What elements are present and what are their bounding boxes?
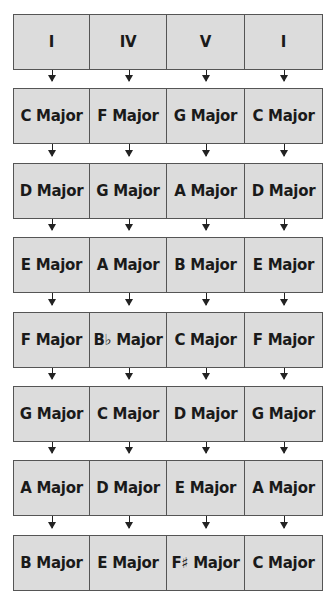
down-arrow-icon (129, 368, 130, 379)
key-row: B MajorE MajorF♯ MajorC Major (13, 535, 323, 591)
down-arrow-icon (129, 442, 130, 453)
chord-key-cell: D Major (90, 460, 167, 516)
down-arrow-icon (206, 70, 207, 81)
chord-key-cell: A Major (245, 460, 323, 516)
key-row: E MajorA MajorB MajorE Major (13, 237, 323, 293)
down-arrow-icon (52, 144, 53, 156)
chord-key-cell: A Major (13, 460, 90, 516)
down-arrow-icon (206, 516, 207, 528)
down-arrow-icon (52, 70, 53, 81)
chord-key-cell: D Major (13, 163, 90, 219)
down-arrow-icon (129, 144, 130, 156)
chord-numeral-cell: V (167, 14, 245, 70)
down-arrow-icon (284, 144, 285, 156)
chord-key-cell: D Major (245, 163, 323, 219)
chord-key-cell: C Major (167, 312, 245, 368)
down-arrow-icon (206, 442, 207, 453)
chord-numeral-cell: I (245, 14, 323, 70)
key-row: C MajorF MajorG MajorC Major (13, 88, 323, 144)
chord-key-cell: C Major (245, 88, 323, 144)
chord-key-cell: E Major (167, 460, 245, 516)
key-row: D MajorG MajorA MajorD Major (13, 163, 323, 219)
down-arrow-icon (52, 293, 53, 305)
chord-key-cell: B Major (13, 535, 90, 591)
chord-key-cell: E Major (13, 237, 90, 293)
chord-key-cell: E Major (245, 237, 323, 293)
chord-key-cell: G Major (90, 163, 167, 219)
down-arrow-icon (284, 293, 285, 305)
chord-key-cell: A Major (167, 163, 245, 219)
chord-key-cell: G Major (167, 88, 245, 144)
down-arrow-icon (284, 70, 285, 81)
down-arrow-icon (206, 219, 207, 230)
down-arrow-icon (284, 219, 285, 230)
key-row: F MajorB♭ MajorC MajorF Major (13, 312, 323, 368)
roman-numeral-row: IIVVI (13, 14, 323, 70)
down-arrow-icon (52, 442, 53, 453)
chord-key-cell: G Major (245, 386, 323, 442)
chord-key-cell: C Major (13, 88, 90, 144)
chord-key-cell: F Major (13, 312, 90, 368)
down-arrow-icon (206, 293, 207, 305)
chord-key-cell: F Major (90, 88, 167, 144)
down-arrow-icon (206, 144, 207, 156)
down-arrow-icon (284, 442, 285, 453)
chord-key-cell: C Major (90, 386, 167, 442)
down-arrow-icon (206, 368, 207, 379)
chord-key-cell: D Major (167, 386, 245, 442)
down-arrow-icon (129, 70, 130, 81)
down-arrow-icon (129, 293, 130, 305)
chord-key-cell: F♯ Major (167, 535, 245, 591)
chord-key-cell: G Major (13, 386, 90, 442)
key-row: G MajorC MajorD MajorG Major (13, 386, 323, 442)
chord-numeral-cell: I (13, 14, 90, 70)
key-row: A MajorD MajorE MajorA Major (13, 460, 323, 516)
chord-key-cell: E Major (90, 535, 167, 591)
chord-key-cell: B♭ Major (90, 312, 167, 368)
chord-key-cell: A Major (90, 237, 167, 293)
chord-key-cell: C Major (245, 535, 323, 591)
down-arrow-icon (129, 516, 130, 528)
down-arrow-icon (52, 368, 53, 379)
down-arrow-icon (129, 219, 130, 230)
chord-key-cell: B Major (167, 237, 245, 293)
chord-numeral-cell: IV (90, 14, 167, 70)
down-arrow-icon (284, 368, 285, 379)
down-arrow-icon (52, 516, 53, 528)
down-arrow-icon (52, 219, 53, 230)
down-arrow-icon (284, 516, 285, 528)
chord-key-cell: F Major (245, 312, 323, 368)
